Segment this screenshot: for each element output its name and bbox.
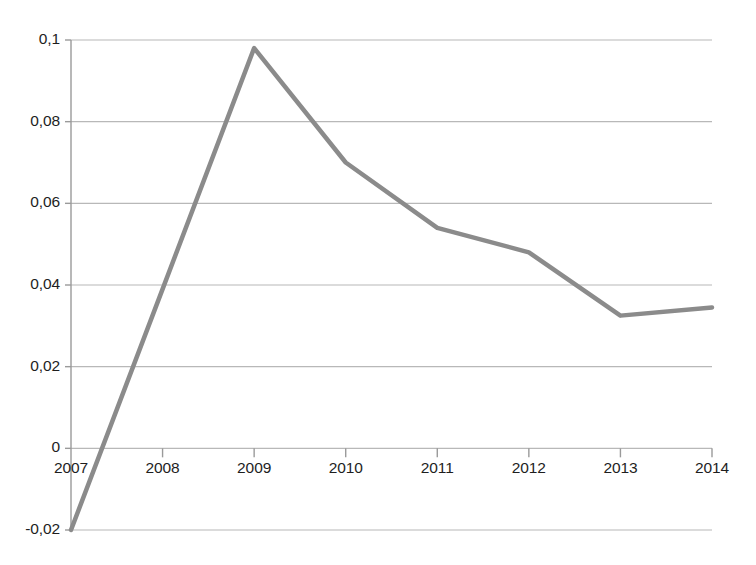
x-axis-tick-label: 2009 xyxy=(214,459,294,477)
x-axis-ticks-group xyxy=(163,448,712,457)
x-axis-tick-label: 2012 xyxy=(489,459,569,477)
x-axis-tick-label: 2010 xyxy=(306,459,386,477)
data-series-line xyxy=(71,48,712,530)
y-axis-tick-label: 0,08 xyxy=(30,112,60,130)
y-axis-tick-label: 0,04 xyxy=(30,275,60,293)
x-axis-tick-label: 2008 xyxy=(123,459,203,477)
y-axis-tick-label: 0,06 xyxy=(30,193,60,211)
x-axis-tick-label: 2014 xyxy=(672,459,752,477)
y-axis-tick-label: 0,1 xyxy=(39,30,60,48)
line-chart: 0,10,080,060,040,020-0,02 20072008200920… xyxy=(0,0,756,565)
x-axis-tick-label: 2011 xyxy=(397,459,477,477)
y-axis-tick-label: 0 xyxy=(51,438,60,456)
x-axis-tick-label: 2013 xyxy=(580,459,660,477)
chart-plot-area xyxy=(0,0,756,565)
x-axis-tick-label: 2007 xyxy=(31,459,111,477)
y-axis-tick-label: 0,02 xyxy=(30,357,60,375)
y-axis-tick-label: -0,02 xyxy=(25,520,60,538)
